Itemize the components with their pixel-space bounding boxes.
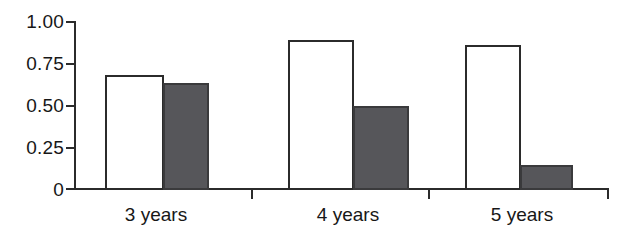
category-label-3-years: 3 years xyxy=(96,204,216,226)
category-label-5-years: 5 years xyxy=(462,204,582,226)
bar-5-years-open[interactable] xyxy=(465,45,521,190)
bar-chart: 1.00 0.75 0.50 0.25 0 3 years 4 years 5 … xyxy=(0,0,621,238)
category-label-4-years: 4 years xyxy=(288,204,408,226)
bar-5-years-filled[interactable] xyxy=(520,165,573,190)
bar-3-years-filled[interactable] xyxy=(163,83,209,190)
bar-3-years-open[interactable] xyxy=(105,75,164,190)
bar-4-years-filled[interactable] xyxy=(353,106,409,190)
bar-4-years-open[interactable] xyxy=(288,40,354,190)
plot-area xyxy=(0,0,621,238)
